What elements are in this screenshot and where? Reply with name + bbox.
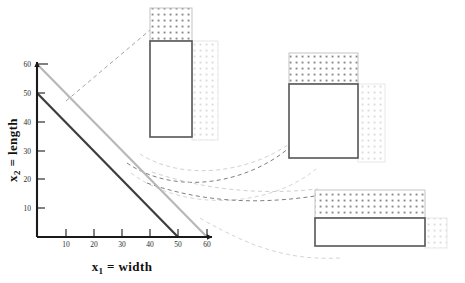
rectangle-square-side-strip (358, 84, 385, 162)
connector-to-rectangle-tall (66, 30, 150, 101)
rectangle-tall-side-strip (192, 41, 218, 140)
rectangle-square-top-strip (289, 53, 358, 84)
y-tick-label: 50 (24, 89, 32, 98)
x-tick-label: 40 (146, 240, 154, 249)
rectangle-tall-callout (150, 8, 218, 140)
y-axis-ticks (37, 64, 48, 208)
x-tick-label: 60 (203, 240, 211, 249)
x-axis-ticks (66, 229, 207, 237)
y-tick-label: 10 (24, 204, 32, 213)
x-axis-label-rest: = width (103, 259, 152, 274)
y-tick-label: 30 (24, 147, 32, 156)
rectangle-tall-top-strip (150, 8, 192, 41)
rectangle-square-callout (289, 53, 385, 162)
rectangle-wide-side-strip (425, 218, 447, 248)
rectangle-wide-top-strip (315, 190, 425, 218)
connector-to-rectangle-square-inner (140, 142, 292, 171)
x-tick-label: 10 (62, 240, 70, 249)
chart-svg: 10 20 30 40 50 60 10 20 30 40 50 60 x1 =… (0, 0, 465, 283)
figure-container: 10 20 30 40 50 60 10 20 30 40 50 60 x1 =… (0, 0, 465, 283)
connector-to-rectangle-square-upper (127, 148, 289, 182)
y-tick-label: 60 (24, 60, 32, 69)
rectangle-square-box (289, 84, 358, 158)
y-tick-label: 20 (24, 175, 32, 184)
x-axis-label: x1 = width (92, 259, 153, 276)
y-axis-label-rest: = length (5, 118, 20, 171)
x-tick-label: 50 (174, 240, 182, 249)
y-tick-label: 40 (24, 118, 32, 127)
rectangle-tall-box (150, 41, 192, 137)
y-axis-label: x2 = length (5, 118, 22, 182)
rectangle-wide-callout (315, 190, 447, 248)
axis-titles: x1 = width x2 = length (5, 118, 153, 276)
x-tick-label: 20 (90, 240, 98, 249)
x-tick-label: 30 (118, 240, 126, 249)
connector-to-rectangle-square-lower (131, 169, 316, 200)
rectangle-wide-box (315, 218, 425, 246)
